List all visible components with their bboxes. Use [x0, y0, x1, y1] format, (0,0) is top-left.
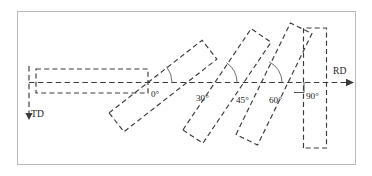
angle-label-0deg: 0° [151, 89, 160, 99]
angle-label-45deg: 45° [236, 95, 249, 105]
angle-label-30deg: 30° [196, 93, 209, 103]
angle-label-60deg: 60° [269, 95, 282, 105]
angle-label-90deg: 90° [306, 91, 319, 101]
figure-container: 0° 30° 45° 60° 90° RD TD [0, 0, 372, 176]
td-axis-label: TD [31, 108, 44, 119]
orientation-schematic: 0° 30° 45° 60° 90° RD TD [0, 0, 372, 176]
rd-axis-label: RD [333, 65, 347, 76]
figure-frame [18, 12, 356, 165]
